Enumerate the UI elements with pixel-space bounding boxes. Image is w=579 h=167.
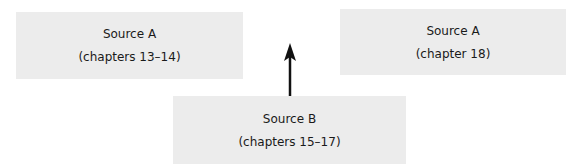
node-title: Source B [263, 113, 316, 125]
node-title: Source A [426, 25, 479, 37]
node-source-b-chapters-15-17: Source B (chapters 15–17) [173, 96, 406, 164]
node-subtitle: (chapters 15–17) [238, 136, 340, 148]
node-subtitle: (chapters 13–14) [78, 51, 180, 63]
arrow-up-icon [280, 42, 300, 98]
node-source-a-chapters-13-14: Source A (chapters 13–14) [16, 12, 243, 79]
node-subtitle: (chapter 18) [416, 48, 491, 60]
node-source-a-chapter-18: Source A (chapter 18) [340, 9, 566, 75]
node-title: Source A [103, 28, 156, 40]
